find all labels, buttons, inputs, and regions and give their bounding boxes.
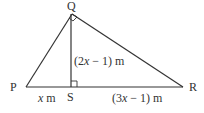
vertex-label-Q: Q (67, 0, 76, 13)
side-QR (72, 14, 183, 87)
length-label-PS: x m (37, 91, 56, 105)
right-angle-marker-S (71, 81, 77, 87)
length-label-QS: (2x − 1) m (74, 54, 125, 68)
side-PQ (26, 14, 72, 87)
vertex-label-P: P (10, 80, 17, 94)
vertex-label-R: R (189, 80, 197, 94)
vertex-label-S: S (67, 90, 74, 104)
triangle-diagram: Q P S R (2x − 1) m x m (3x − 1) m (0, 0, 204, 113)
length-label-SR: (3x − 1) m (112, 91, 163, 105)
